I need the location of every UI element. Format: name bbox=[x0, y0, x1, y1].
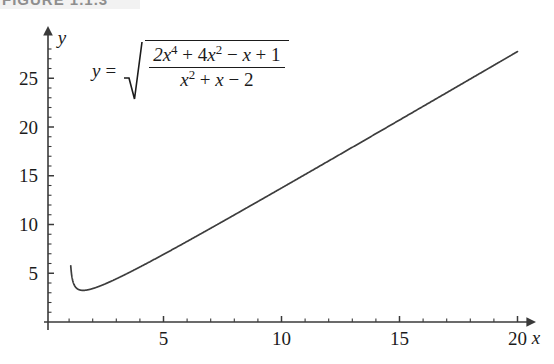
x-axis-label: x bbox=[531, 327, 541, 348]
figure-root: FIGURE 1.1.3 5101520 510152025 x y y = bbox=[0, 0, 554, 364]
x-axis-tick-label: 15 bbox=[390, 328, 409, 349]
equation-lhs: y bbox=[92, 60, 100, 82]
x-axis-major-ticks bbox=[164, 316, 518, 322]
fraction-numerator: 2x4 + 4x2 − x + 1 bbox=[149, 43, 284, 67]
y-axis-tick-label: 5 bbox=[29, 263, 39, 284]
x-axis-tick-label: 20 bbox=[508, 328, 527, 349]
equation-equals-sign: = bbox=[105, 60, 116, 82]
y-axis-tick-label: 20 bbox=[19, 117, 38, 138]
y-axis-tick-label: 25 bbox=[19, 68, 38, 89]
y-axis-tick-labels: 510152025 bbox=[19, 68, 38, 284]
x-axis-tick-label: 5 bbox=[159, 328, 169, 349]
y-axis-tick-label: 10 bbox=[19, 214, 38, 235]
y-axis-label: y bbox=[56, 27, 67, 48]
x-axis-tick-labels: 5101520 bbox=[159, 328, 527, 349]
square-root-icon: 2x4 + 4x2 − x + 1 x2 + x − 2 bbox=[123, 40, 288, 102]
x-axis-tick-label: 10 bbox=[272, 328, 291, 349]
fraction-denominator: x2 + x − 2 bbox=[176, 68, 257, 92]
radicand: 2x4 + 4x2 − x + 1 x2 + x − 2 bbox=[145, 40, 288, 102]
y-axis-tick-label: 15 bbox=[19, 165, 38, 186]
equation-annotation: y = 2x4 + 4x2 − x + 1 x2 + x − 2 bbox=[92, 40, 289, 102]
